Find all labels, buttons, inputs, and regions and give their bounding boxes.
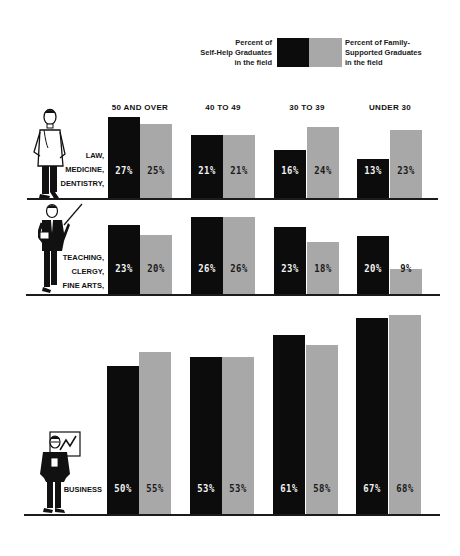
value-label: 68%: [391, 482, 418, 494]
value-label: 61%: [275, 482, 302, 494]
value-label: 53%: [192, 482, 219, 494]
value-label: 58%: [308, 482, 335, 494]
value-label: 55%: [141, 482, 168, 494]
baseline-row3: [24, 514, 440, 516]
row3-plot: [0, 0, 460, 514]
value-label: 53%: [224, 482, 251, 494]
value-label: 67%: [358, 482, 385, 494]
value-label: 50%: [109, 482, 136, 494]
